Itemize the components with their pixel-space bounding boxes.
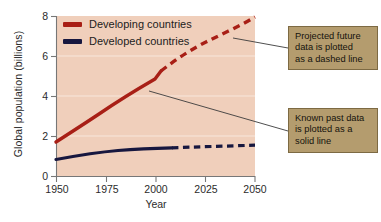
x-tick-label-2025: 2025 xyxy=(183,183,229,195)
chart-figure: Developing countries Developed countries… xyxy=(0,0,381,222)
legend-swatch-developed xyxy=(63,39,82,44)
annotation-projected-line-3: as a dashed line xyxy=(295,54,372,65)
annotation-projected-line-2: data is plotted xyxy=(295,42,372,53)
annotation-projected-future: Projected future data is plotted as a da… xyxy=(288,26,378,70)
y-tick-label-6: 6 xyxy=(26,50,48,62)
legend-swatch-developing xyxy=(63,22,82,27)
x-tick-label-1950: 1950 xyxy=(34,183,80,195)
legend-label-developed: Developed countries xyxy=(89,35,189,47)
annotation-known-line-1: Known past data xyxy=(295,113,372,124)
y-tick-label-4: 4 xyxy=(26,90,48,102)
x-tick-label-2000: 2000 xyxy=(133,183,179,195)
x-axis-title: Year xyxy=(56,198,256,210)
x-tick-label-1975: 1975 xyxy=(84,183,130,195)
y-tick-label-0: 0 xyxy=(26,170,48,182)
legend-item-developed: Developed countries xyxy=(63,33,192,49)
legend-label-developing: Developing countries xyxy=(89,18,192,30)
legend-item-developing: Developing countries xyxy=(63,16,192,32)
y-tick-label-2: 2 xyxy=(26,130,48,142)
annotation-known-past: Known past data is plotted as a solid li… xyxy=(288,108,378,153)
annotation-known-line-2: is plotted as a xyxy=(295,124,372,135)
y-tick-label-8: 8 xyxy=(26,10,48,22)
annotation-projected-line-1: Projected future xyxy=(295,31,372,42)
y-axis-ticks xyxy=(51,17,56,177)
chart-legend: Developing countries Developed countries xyxy=(63,16,192,50)
x-tick-label-2050: 2050 xyxy=(232,183,278,195)
y-axis-title: Global population (billions) xyxy=(12,14,24,174)
annotation-known-line-3: solid line xyxy=(295,136,372,147)
